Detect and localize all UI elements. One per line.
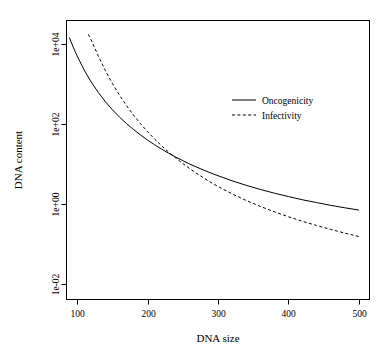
x-tick-label-500: 500 — [352, 309, 367, 319]
x-axis-tick-labels: 100200300400500 — [70, 309, 367, 319]
y-axis-title: DNA content — [12, 131, 24, 189]
legend-label-infectivity: Infectivity — [262, 111, 302, 121]
plot-box-border — [67, 21, 370, 300]
y-tick-label-1e-02: 1e-02 — [51, 273, 61, 295]
plot-frame — [67, 21, 370, 300]
x-tick-label-200: 200 — [141, 309, 156, 319]
x-tick-label-300: 300 — [211, 309, 226, 319]
series-line-infectivity — [88, 34, 359, 236]
x-tick-label-400: 400 — [281, 309, 296, 319]
chart-legend: OncogenicityInfectivity — [232, 96, 313, 121]
x-tick-label-100: 100 — [70, 309, 85, 319]
y-axis-tick-labels: 1e-021e+001e+021e+04 — [51, 32, 61, 295]
x-axis-title: DNA size — [196, 332, 239, 344]
y-tick-label-1e+02: 1e+02 — [51, 112, 61, 136]
chart-figure: 100200300400500 1e-021e+001e+021e+04 Onc… — [0, 0, 386, 361]
legend-label-oncogenicity: Oncogenicity — [262, 96, 313, 106]
x-axis-ticks — [78, 300, 360, 305]
y-tick-label-1e+04: 1e+04 — [51, 32, 61, 56]
y-axis-ticks — [62, 45, 67, 285]
series-line-oncogenicity — [69, 37, 359, 210]
chart-canvas: 100200300400500 1e-021e+001e+021e+04 Onc… — [0, 0, 386, 361]
y-tick-label-1e+00: 1e+00 — [51, 192, 61, 216]
data-series-layer — [69, 34, 359, 236]
